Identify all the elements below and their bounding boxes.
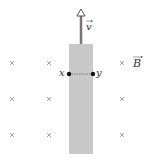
cross-icon [120, 61, 124, 65]
cross-icon [10, 61, 14, 65]
cross-icon [10, 97, 14, 101]
diagram-canvas [0, 0, 144, 162]
velocity-label: v [86, 22, 92, 32]
cross-icon [47, 97, 51, 101]
cross-icon [47, 61, 51, 65]
point-y-dot [91, 72, 95, 76]
magnetic-field-crosses [10, 61, 124, 137]
point-x-dot [67, 72, 71, 76]
cross-icon [10, 133, 14, 137]
cross-icon [120, 133, 124, 137]
velocity-arrow [77, 9, 85, 44]
conducting-bar [69, 44, 93, 154]
point-x-label: x [59, 68, 65, 78]
cross-icon [120, 97, 124, 101]
field-label: B [133, 58, 141, 69]
cross-icon [47, 133, 51, 137]
point-y-label: y [96, 68, 102, 78]
